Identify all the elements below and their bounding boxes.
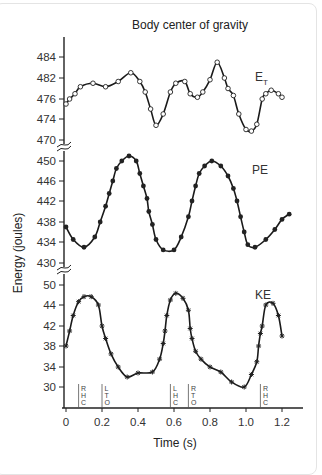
data-point: [209, 159, 214, 164]
x-axis: 00.20.40.60.81.01.2: [62, 408, 303, 428]
data-point: [127, 154, 132, 159]
data-point: [249, 372, 254, 377]
data-point: [103, 84, 108, 89]
data-point: [264, 91, 269, 96]
data-point: [215, 60, 220, 65]
y-tick-label: 434: [37, 236, 57, 248]
data-point: [76, 299, 81, 304]
data-point: [114, 166, 119, 171]
data-point: [148, 107, 153, 112]
data-point: [208, 365, 213, 370]
data-point: [107, 191, 112, 196]
gait-event-label: L: [173, 385, 177, 392]
data-point: [146, 209, 151, 214]
data-point: [168, 298, 173, 303]
gait-event-label: O: [105, 399, 111, 406]
x-tick-label: 0: [63, 416, 69, 428]
y-tick-label: 450: [37, 155, 56, 167]
data-point: [186, 214, 191, 219]
gait-event-label: R: [263, 385, 268, 392]
series-label-pe: PE: [252, 163, 268, 177]
data-point: [100, 324, 105, 329]
y-tick-label: 50: [43, 279, 56, 291]
data-point: [226, 86, 231, 91]
data-point: [92, 235, 97, 240]
data-point: [145, 196, 150, 201]
data-point: [141, 184, 146, 189]
y-tick-label: 38: [43, 340, 56, 352]
data-point: [193, 184, 198, 189]
y-tick-label: 438: [37, 216, 56, 228]
data-point: [163, 329, 168, 334]
y-axis: 4844824764744704504464424384344305044423…: [37, 37, 71, 408]
y-tick-label: 474: [37, 113, 57, 125]
data-point: [183, 79, 188, 84]
gait-event-label: T: [105, 392, 110, 399]
data-point: [190, 336, 195, 341]
gait-event-label: C: [81, 399, 86, 406]
data-point: [260, 324, 265, 329]
data-point: [263, 237, 268, 242]
gait-event-label: C: [263, 399, 268, 406]
data-point: [150, 370, 155, 375]
data-point: [258, 331, 263, 336]
data-point: [190, 199, 195, 204]
data-point: [103, 204, 108, 209]
data-point: [242, 385, 247, 390]
data-point: [254, 122, 259, 127]
data-point: [82, 294, 87, 299]
data-point: [161, 247, 166, 252]
data-point: [256, 344, 261, 349]
y-tick-label: 430: [37, 257, 56, 269]
y-tick-label: 34: [43, 361, 56, 373]
data-point: [181, 296, 186, 301]
data-point: [116, 79, 121, 84]
y-axis-title: Energy (joules): [11, 213, 25, 294]
gait-event-label: L: [105, 385, 109, 392]
data-point: [260, 97, 265, 102]
data-point: [276, 313, 281, 318]
data-point: [64, 344, 69, 349]
data-point: [173, 291, 178, 296]
data-point: [202, 164, 207, 169]
data-point: [179, 235, 184, 240]
data-point: [103, 336, 108, 341]
data-point: [242, 230, 247, 235]
data-point: [172, 247, 177, 252]
gait-event-label: R: [81, 385, 86, 392]
x-tick-label: 0.2: [94, 416, 110, 428]
y-tick-label: 482: [37, 72, 56, 84]
data-point: [119, 159, 124, 164]
data-point: [186, 308, 191, 313]
gait-event-label: C: [173, 399, 178, 406]
data-point: [188, 91, 193, 96]
gait-event-label: H: [263, 392, 268, 399]
chart-title: Body center of gravity: [132, 18, 248, 32]
gait-event-label: R: [191, 385, 196, 392]
data-point: [67, 329, 72, 334]
y-tick-label: 44: [43, 299, 56, 311]
data-point: [71, 237, 76, 242]
data-point: [91, 81, 96, 86]
y-tick-label: 476: [37, 93, 56, 105]
data-point: [280, 334, 285, 339]
data-point: [129, 70, 134, 75]
data-point: [280, 95, 285, 100]
data-point: [263, 303, 268, 308]
data-point: [287, 212, 292, 217]
data-point: [245, 242, 250, 247]
data-point: [64, 225, 69, 230]
data-point: [254, 359, 259, 364]
data-point: [109, 351, 114, 356]
data-point: [229, 380, 234, 385]
data-point: [208, 77, 213, 82]
data-point: [161, 341, 166, 346]
data-point: [134, 159, 139, 164]
data-point: [110, 179, 115, 184]
data-point: [96, 303, 101, 308]
data-point: [64, 102, 69, 107]
y-tick-label: 442: [37, 195, 56, 207]
data-point: [197, 171, 202, 176]
gait-event-label: H: [173, 392, 178, 399]
